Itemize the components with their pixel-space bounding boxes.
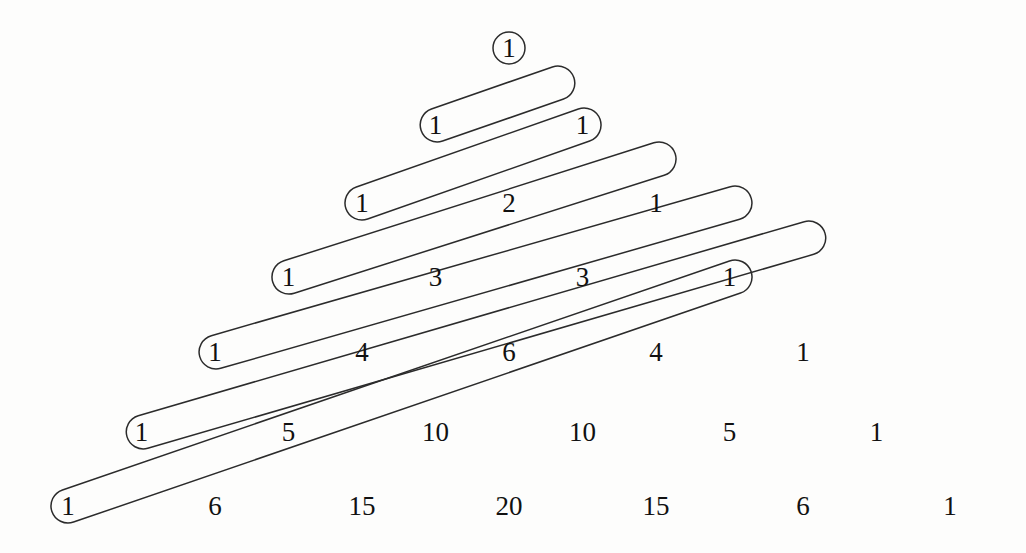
pascal-cell-r5-c2: 10 (422, 419, 449, 446)
pascal-cell-r6-c5: 6 (796, 493, 810, 520)
pascal-cell-r4-c2: 6 (502, 339, 516, 366)
pascal-cell-r6-c4: 15 (643, 493, 670, 520)
pascal-cell-r4-c3: 4 (649, 339, 663, 366)
pascal-cell-r4-c4: 1 (796, 339, 810, 366)
pascal-cell-r5-c4: 5 (723, 419, 737, 446)
pascal-cell-r3-c3: 1 (723, 264, 737, 291)
pascal-cell-r5-c0: 1 (135, 419, 149, 446)
pascal-cell-r4-c0: 1 (208, 339, 222, 366)
pascal-cell-r6-c0: 1 (61, 493, 75, 520)
pascal-cell-r2-c1: 2 (502, 190, 516, 217)
pascal-cell-r4-c1: 4 (355, 339, 369, 366)
pascal-cell-r0-c0: 1 (502, 35, 516, 62)
pascal-cell-r1-c0: 1 (429, 112, 443, 139)
pascal-cell-r5-c1: 5 (282, 419, 296, 446)
pascal-cell-r3-c2: 3 (576, 264, 590, 291)
pascal-cell-r6-c1: 6 (208, 493, 222, 520)
pascal-cell-r6-c6: 1 (943, 493, 957, 520)
pascal-cell-r2-c2: 1 (649, 190, 663, 217)
pascal-cell-r1-c1: 1 (576, 112, 590, 139)
pascal-cell-r3-c0: 1 (282, 264, 296, 291)
pascal-number-grid: 111121133114641151010511615201561 (0, 0, 1026, 553)
pascal-cell-r5-c5: 1 (870, 419, 884, 446)
pascal-cell-r5-c3: 10 (569, 419, 596, 446)
pascal-cell-r3-c1: 3 (429, 264, 443, 291)
pascals-triangle-figure: 111121133114641151010511615201561 (0, 0, 1026, 553)
pascal-cell-r2-c0: 1 (355, 190, 369, 217)
pascal-cell-r6-c2: 15 (349, 493, 376, 520)
pascal-cell-r6-c3: 20 (496, 493, 523, 520)
